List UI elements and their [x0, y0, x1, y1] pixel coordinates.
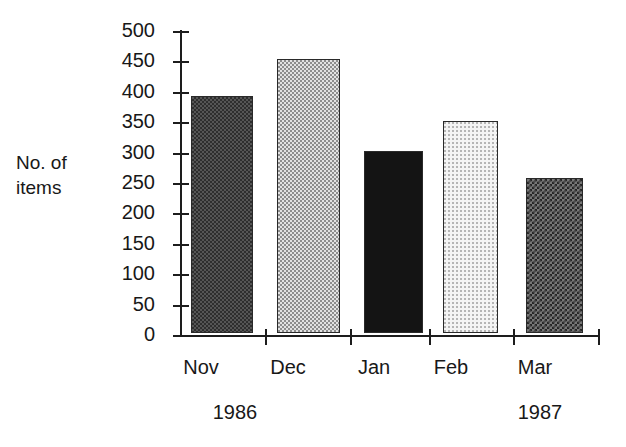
y-tick-0: 0 [173, 335, 189, 337]
y-tick-500: 500 [173, 31, 189, 33]
x-label-jan: Jan [334, 355, 414, 379]
x-label-mar: Mar [495, 355, 575, 379]
bar-dec [277, 59, 340, 333]
y-tick-350: 350 [173, 122, 189, 124]
bar-nov [191, 96, 253, 333]
bar-feb [443, 121, 498, 333]
y-tick-label-300: 300 [85, 141, 155, 163]
x-label-feb: Feb [411, 355, 491, 379]
bar-jan [364, 151, 423, 333]
x-tick-1 [265, 329, 267, 345]
y-tick-300: 300 [173, 153, 189, 155]
year-label-1986: 1986 [195, 400, 275, 424]
plot-area: 0 50 100 150 200 250 300 350 400 450 500 [180, 31, 600, 335]
x-label-dec: Dec [248, 355, 328, 379]
y-tick-label-400: 400 [85, 80, 155, 102]
bar-mar [526, 178, 583, 333]
y-tick-50: 50 [173, 305, 189, 307]
y-tick-label-50: 50 [85, 293, 155, 315]
y-tick-250: 250 [173, 183, 189, 185]
y-tick-100: 100 [173, 274, 189, 276]
y-tick-label-500: 500 [85, 19, 155, 41]
y-tick-label-100: 100 [85, 262, 155, 284]
y-tick-200: 200 [173, 213, 189, 215]
y-tick-450: 450 [173, 61, 189, 63]
y-tick-label-0: 0 [85, 323, 155, 345]
y-tick-label-200: 200 [85, 201, 155, 223]
x-tick-4 [513, 329, 515, 345]
y-tick-label-250: 250 [85, 171, 155, 193]
x-tick-5 [598, 329, 600, 345]
y-tick-label-350: 350 [85, 110, 155, 132]
y-tick-label-450: 450 [85, 49, 155, 71]
y-tick-label-150: 150 [85, 232, 155, 254]
x-axis-line [180, 335, 600, 337]
x-label-nov: Nov [161, 355, 241, 379]
y-tick-150: 150 [173, 244, 189, 246]
bar-chart: No. of items 0 50 100 150 200 250 300 35… [0, 0, 626, 447]
y-tick-400: 400 [173, 92, 189, 94]
x-tick-3 [429, 329, 431, 345]
x-tick-2 [350, 329, 352, 345]
year-label-1987: 1987 [500, 400, 580, 424]
